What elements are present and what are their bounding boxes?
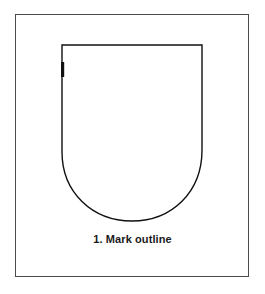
diagram-canvas — [0, 0, 265, 294]
figure-caption: 1. Mark outline — [0, 233, 265, 246]
outline-tick-mark — [61, 62, 64, 77]
figure-container: 1. Mark outline — [0, 0, 265, 294]
shield-outline — [62, 45, 202, 221]
